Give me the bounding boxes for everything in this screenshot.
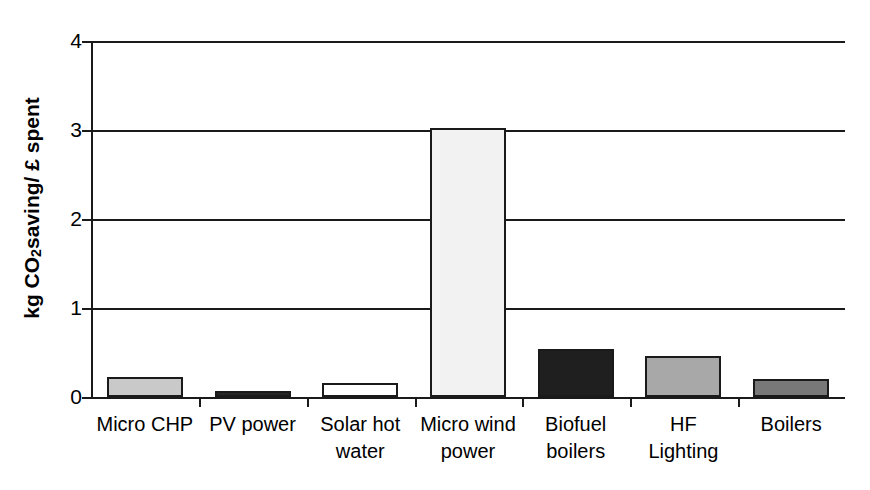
x-tick-sep-6 bbox=[738, 397, 740, 407]
x-tick-sep-1 bbox=[199, 397, 201, 407]
y-tick-label-0: 0 bbox=[42, 385, 82, 409]
bars-layer bbox=[91, 41, 845, 397]
x-tick-sep-4 bbox=[522, 397, 524, 407]
x-label-line: Lighting bbox=[622, 438, 746, 465]
x-axis-baseline bbox=[91, 397, 845, 399]
y-tick-mark-1 bbox=[82, 308, 91, 310]
y-tick-label-3: 3 bbox=[42, 118, 82, 142]
y-tick-label-2: 2 bbox=[42, 207, 82, 231]
y-axis-title-prefix: kg CO bbox=[20, 257, 44, 319]
x-tick-sep-3 bbox=[415, 397, 417, 407]
x-label-micro-chp: Micro CHP bbox=[83, 411, 207, 438]
x-label-line: PV power bbox=[209, 413, 296, 435]
bar-pv-power bbox=[215, 391, 291, 397]
x-label-line: Micro wind bbox=[420, 413, 516, 435]
x-label-line: water bbox=[298, 438, 422, 465]
x-label-boilers: Boilers bbox=[729, 411, 853, 438]
y-tick-mark-2 bbox=[82, 219, 91, 221]
y-tick-mark-3 bbox=[82, 130, 91, 132]
y-axis-title-suffix: saving/ £ spent bbox=[20, 97, 44, 249]
x-label-line: Solar hot bbox=[320, 413, 400, 435]
y-axis-title-subscript: 2 bbox=[28, 249, 44, 257]
y-tick-mark-4 bbox=[82, 41, 91, 43]
x-label-line: Micro CHP bbox=[97, 413, 194, 435]
x-label-solar-hot-water: Solar hotwater bbox=[298, 411, 422, 465]
x-label-line: Boilers bbox=[761, 413, 822, 435]
bar-biofuel-boilers bbox=[538, 349, 614, 397]
x-label-pv-power: PV power bbox=[191, 411, 315, 438]
bar-micro-wind-power bbox=[430, 128, 506, 397]
x-label-hf-lighting: HFLighting bbox=[622, 411, 746, 465]
bar-hf-lighting bbox=[645, 356, 721, 397]
x-label-micro-wind-power: Micro windpower bbox=[406, 411, 530, 465]
x-tick-sep-5 bbox=[630, 397, 632, 407]
x-axis-labels: Micro CHP PV power Solar hotwater Micro … bbox=[91, 411, 845, 481]
bar-chart-figure: kg CO2 saving/ £ spent 4 3 2 1 0 Micro C… bbox=[0, 0, 870, 490]
y-tick-label-4: 4 bbox=[42, 29, 82, 53]
x-label-biofuel-boilers: Biofuelboilers bbox=[514, 411, 638, 465]
x-label-line: HF bbox=[670, 413, 697, 435]
x-label-line: power bbox=[406, 438, 530, 465]
x-label-line: Biofuel bbox=[545, 413, 606, 435]
x-tick-sep-2 bbox=[307, 397, 309, 407]
y-tick-mark-0 bbox=[82, 397, 91, 399]
y-tick-label-1: 1 bbox=[42, 296, 82, 320]
bar-boilers bbox=[753, 379, 829, 397]
bar-solar-hot-water bbox=[322, 383, 398, 397]
bar-micro-chp bbox=[107, 377, 183, 397]
x-label-line: boilers bbox=[514, 438, 638, 465]
